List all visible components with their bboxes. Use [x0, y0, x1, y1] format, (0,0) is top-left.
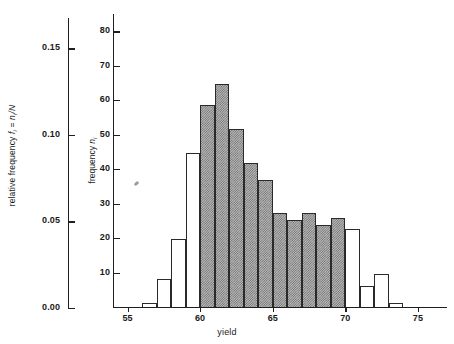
- yield-tick: [418, 307, 419, 312]
- histogram-bar: [331, 218, 346, 308]
- yield-tick-label: 60: [185, 313, 215, 323]
- x-axis-line: [113, 307, 447, 308]
- rel-label-prefix: relative frequency: [7, 134, 17, 206]
- relative-frequency-tick-label: 0.10: [20, 129, 60, 139]
- yield-tick: [273, 307, 274, 312]
- yield-tick-label: 75: [403, 313, 433, 323]
- histogram-bar: [229, 129, 244, 308]
- yield-tick: [345, 307, 346, 312]
- frequency-tick-label: 20: [86, 232, 110, 242]
- relative-frequency-axis-label: relative frequency fi = ni/N: [7, 81, 18, 231]
- yield-tick-label: 70: [330, 313, 360, 323]
- frequency-tick-label: 50: [86, 129, 110, 139]
- relative-frequency-axis-line: [68, 18, 69, 308]
- rel-label-den: /N: [7, 105, 17, 114]
- relative-frequency-tick-label: 0.15: [20, 42, 60, 52]
- histogram-bar: [302, 213, 317, 308]
- histogram-bar: [316, 225, 331, 308]
- frequency-tick-label: 30: [86, 198, 110, 208]
- histogram-bar: [215, 84, 230, 308]
- histogram-bar: [374, 274, 389, 308]
- yield-tick-label: 65: [258, 313, 288, 323]
- yield-tick-label: 55: [113, 313, 143, 323]
- frequency-tick-label: 60: [86, 94, 110, 104]
- histogram-bar: [273, 213, 288, 308]
- relative-frequency-tick: [68, 308, 75, 309]
- histogram-bar: [287, 220, 302, 308]
- yield-axis-label: yield: [0, 327, 454, 337]
- histogram-bar: [171, 239, 186, 308]
- histogram-bar: [186, 153, 201, 308]
- rel-label-symbol: f: [7, 132, 17, 135]
- histogram-bar: [345, 229, 360, 308]
- relative-frequency-tick: [68, 135, 75, 136]
- frequency-tick-label: 10: [86, 267, 110, 277]
- rel-label-eq: =: [7, 120, 17, 130]
- relative-frequency-tick-label: 0.00: [20, 302, 60, 312]
- plot-area: [113, 14, 447, 308]
- rel-label-num-sub: i: [12, 114, 18, 115]
- rel-label-num: n: [7, 115, 17, 120]
- relative-frequency-tick: [68, 221, 75, 222]
- histogram-figure: relative frequency fi = ni/N 0.000.050.1…: [0, 0, 454, 344]
- relative-frequency-tick-label: 0.05: [20, 215, 60, 225]
- frequency-tick-label: 80: [86, 25, 110, 35]
- relative-frequency-tick: [68, 48, 75, 49]
- freq-label-symbol: n: [87, 139, 97, 144]
- frequency-tick-label: 70: [86, 60, 110, 70]
- histogram-bar: [244, 163, 259, 308]
- histogram-bar: [258, 180, 273, 308]
- yield-tick: [128, 307, 129, 312]
- frequency-tick-label: 40: [86, 163, 110, 173]
- histogram-bar: [360, 286, 375, 308]
- histogram-bar: [200, 105, 215, 308]
- yield-tick: [200, 307, 201, 312]
- histogram-bar: [157, 279, 172, 308]
